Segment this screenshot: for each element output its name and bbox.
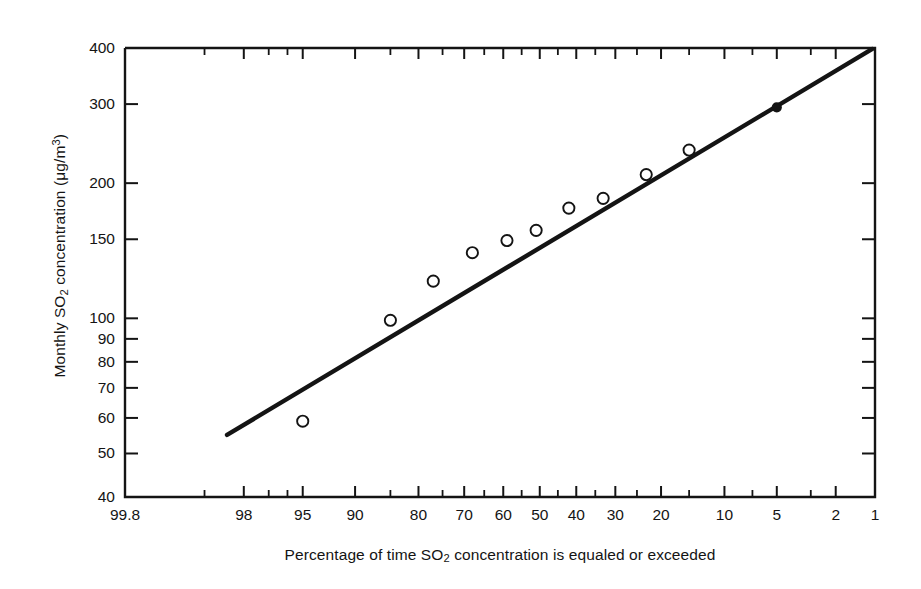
data-point-open — [385, 315, 396, 326]
data-point-filled — [772, 103, 781, 112]
x-tick-label: 1 — [871, 506, 880, 524]
y-tick-label: 150 — [47, 230, 115, 248]
x-axis-minor-ticks — [205, 48, 811, 497]
data-point-open — [428, 276, 439, 287]
x-tick-label: 95 — [294, 506, 311, 524]
x-axis-title-post: concentration is equaled or exceeded — [450, 546, 716, 563]
y-tick-label: 300 — [47, 95, 115, 113]
y-tick-label: 50 — [47, 444, 115, 462]
y-tick-label: 40 — [47, 488, 115, 506]
x-axis-title: Percentage of time SO2 concentration is … — [125, 546, 875, 564]
x-tick-label: 80 — [410, 506, 427, 524]
y-tick-label: 200 — [47, 174, 115, 192]
x-tick-label: 50 — [531, 506, 548, 524]
x-tick-label: 90 — [346, 506, 363, 524]
data-point-open — [641, 169, 652, 180]
x-tick-label: 98 — [235, 506, 252, 524]
x-tick-label: 30 — [607, 506, 624, 524]
y-tick-label: 70 — [47, 379, 115, 397]
data-point-open — [598, 193, 609, 204]
x-tick-label: 20 — [652, 506, 669, 524]
x-axis-title-pre: Percentage of time SO — [285, 546, 444, 563]
data-point-open — [297, 416, 308, 427]
plot-canvas — [0, 0, 921, 589]
x-tick-label: 70 — [456, 506, 473, 524]
chart-figure: Monthly SO2 concentration (μg/m3) Percen… — [0, 0, 921, 589]
x-tick-label: 40 — [568, 506, 585, 524]
y-axis-title-sup: 3 — [50, 139, 62, 145]
y-axis-title-post: ) — [51, 134, 68, 139]
y-tick-label: 90 — [47, 330, 115, 348]
data-point-open — [467, 247, 478, 258]
x-tick-label: 99.8 — [110, 506, 140, 524]
x-tick-label: 60 — [495, 506, 512, 524]
data-point-markers — [297, 103, 781, 427]
data-point-open — [501, 235, 512, 246]
x-tick-label: 5 — [772, 506, 781, 524]
y-tick-label: 400 — [47, 39, 115, 57]
data-point-open — [684, 144, 695, 155]
y-axis-major-ticks — [125, 104, 875, 453]
x-tick-label: 10 — [716, 506, 733, 524]
y-tick-label: 60 — [47, 409, 115, 427]
y-tick-label: 80 — [47, 353, 115, 371]
y-tick-label: 100 — [47, 309, 115, 327]
y-axis-title-mid: concentration (μg/m — [51, 146, 68, 290]
data-point-open — [563, 202, 574, 213]
data-point-open — [531, 225, 542, 236]
y-axis-title-sub: 2 — [58, 289, 70, 295]
x-tick-label: 2 — [831, 506, 840, 524]
